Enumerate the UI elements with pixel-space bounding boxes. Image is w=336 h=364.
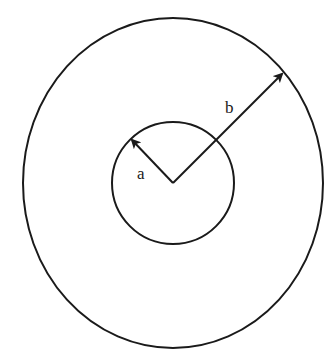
- concentric-circles-diagram: a b: [0, 0, 336, 364]
- outer-radius-label: b: [225, 98, 234, 117]
- inner-radius-label: a: [137, 164, 145, 183]
- outer-radius-arrow: [173, 74, 282, 183]
